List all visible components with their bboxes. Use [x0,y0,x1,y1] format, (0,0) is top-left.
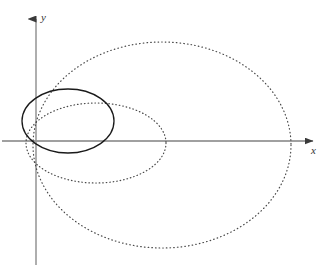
x-axis-label: x [311,145,316,156]
axes-group [2,19,313,265]
large-dotted-ellipse [33,42,291,248]
medium-dotted-ellipse [26,103,166,183]
diagram-svg [0,0,331,272]
y-axis-label: y [41,12,46,23]
geometry-diagram-canvas: y x [0,0,331,272]
